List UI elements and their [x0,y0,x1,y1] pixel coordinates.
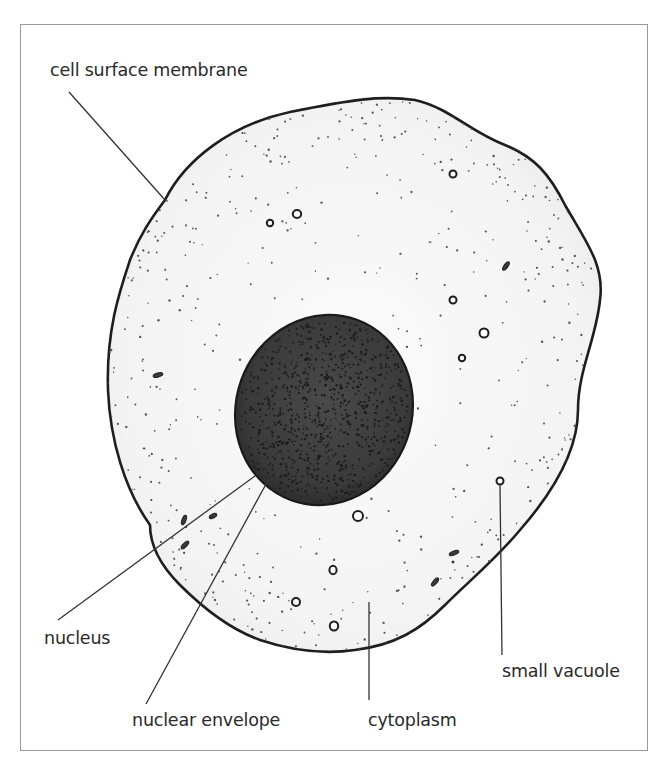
label-cytoplasm: cytoplasm [368,712,457,730]
label-small-vacuole: small vacuole [502,663,620,681]
vacuole [293,210,301,218]
vacuole [480,329,489,338]
vacuole [330,621,338,630]
vacuole [450,297,457,304]
vacuole [353,511,363,521]
label-nucleus: nucleus [44,630,110,648]
vacuole [267,220,273,226]
label-nuclear-envelope: nuclear envelope [132,712,280,730]
vacuole [292,598,300,606]
vacuole [329,566,336,574]
vacuole-labelled [497,478,504,485]
label-cell-surface-membrane: cell surface membrane [50,62,247,80]
vacuole [450,171,457,178]
vacuole [459,355,465,361]
leader-line-cell-surface-membrane [69,92,165,200]
